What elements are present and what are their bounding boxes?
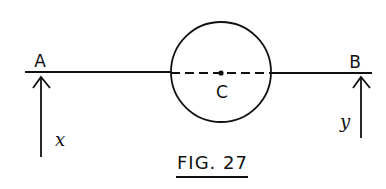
diagram-canvas: A B C x y FIG. 27 — [0, 0, 386, 189]
point-label-c: C — [216, 82, 228, 102]
point-label-a: A — [34, 51, 46, 71]
center-point-dot — [218, 70, 223, 75]
point-label-b: B — [349, 52, 361, 72]
force-arrow-b-icon — [353, 77, 370, 138]
force-arrow-a-icon — [33, 77, 50, 157]
force-label-x: x — [55, 129, 65, 150]
figure-caption: FIG. 27 — [177, 152, 248, 173]
force-label-y: y — [339, 111, 351, 132]
